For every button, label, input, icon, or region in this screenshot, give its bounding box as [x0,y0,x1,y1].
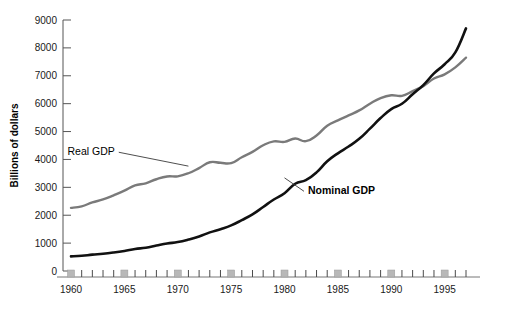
chart-canvas: 0100020003000400050006000700080009000 19… [0,0,508,320]
gdp-line-chart: 0100020003000400050006000700080009000 19… [0,0,508,320]
y-tick-label: 0 [51,266,57,277]
y-tick-label: 9000 [35,15,58,26]
x-tick-marker-highlight [441,270,448,277]
y-axis-title: Billions of dollars [9,103,20,187]
y-tick-label: 2000 [35,210,58,221]
series-label-real-gdp: Real GDP [68,145,115,157]
y-tick-label: 7000 [35,70,58,81]
y-tick-label: 4000 [35,154,58,165]
y-tick-label: 8000 [35,42,58,53]
x-tick-marker-highlight [281,270,288,277]
x-tick-marker-highlight [334,270,341,277]
series-label-nominal-gdp: Nominal GDP [308,184,375,196]
series-annotations: Real GDPNominal GDP [68,145,376,196]
x-tick-marker-highlight [228,270,235,277]
x-tick-label: 1970 [167,284,190,295]
x-tick-label: 1990 [380,284,403,295]
x-tick-label: 1985 [327,284,350,295]
y-axis-title-label: Billions of dollars [9,103,20,187]
x-tick-marker-highlight [174,270,181,277]
leader-line-real-gdp [119,152,189,166]
y-tick-label: 1000 [35,238,58,249]
x-tick-marker-highlight [388,270,395,277]
x-tick-label: 1995 [434,284,457,295]
y-axis: 0100020003000400050006000700080009000 [35,15,71,277]
x-tick-label: 1960 [60,284,83,295]
x-tick-label: 1965 [113,284,136,295]
x-tick-label: 1980 [273,284,296,295]
series-line-real-gdp [71,58,466,208]
y-tick-label: 5000 [35,126,58,137]
series-lines [71,28,466,256]
x-tick-marker-highlight [121,270,128,277]
x-tick-marker-highlight [68,270,75,277]
x-axis: 19601965197019751980198519901995 [57,270,480,295]
x-tick-label: 1975 [220,284,243,295]
y-tick-label: 3000 [35,182,58,193]
y-tick-label: 6000 [35,98,58,109]
